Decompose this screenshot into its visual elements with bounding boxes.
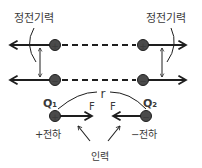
q2-charge-sign: − (142, 112, 150, 122)
top-charge-pair: + + (10, 40, 186, 51)
electrostatic-force-label-left: 정전기력 (14, 12, 54, 25)
positive-charge-label: +전하 (35, 128, 61, 140)
top-right-charge-sign: + (139, 41, 147, 51)
negative-charge-label: −전하 (131, 128, 157, 140)
electrostatic-force-diagram: 정전기력 정전기력 + + − − Q₁ Q₂ r F F + − +전하 −전… (0, 0, 202, 168)
force-label-left: F (89, 101, 95, 112)
q1-charge-sign: + (51, 112, 59, 122)
electrostatic-force-label-right: 정전기력 (146, 12, 186, 25)
top-left-charge-sign: + (51, 41, 59, 51)
attraction-pointer-left (78, 126, 90, 141)
bottom-charge-pair: − − (10, 75, 186, 86)
attraction-pointer-right (108, 126, 120, 141)
distance-label: r (101, 87, 106, 101)
force-label-right: F (110, 101, 116, 112)
attraction-label: 인력 (91, 151, 109, 162)
bottom-right-charge-sign: − (139, 76, 147, 86)
bottom-left-charge-sign: − (51, 76, 59, 86)
q1-label: Q₁ (43, 97, 57, 110)
